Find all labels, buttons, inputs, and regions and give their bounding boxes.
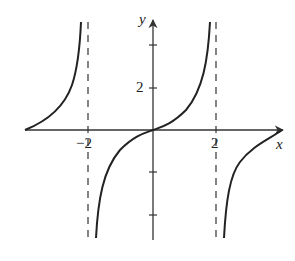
y-axis-label: y <box>139 12 146 27</box>
plot-canvas <box>0 0 295 261</box>
x-tick-label-neg2: −2 <box>76 136 92 151</box>
graph-figure: y x −2 2 2 <box>0 0 295 261</box>
y-tick-label-2: 2 <box>136 80 144 95</box>
x-tick-label-pos2: 2 <box>211 136 219 151</box>
x-axis-label: x <box>276 137 283 152</box>
curve-right-branch <box>224 130 282 238</box>
curve-left-branch <box>25 22 81 130</box>
